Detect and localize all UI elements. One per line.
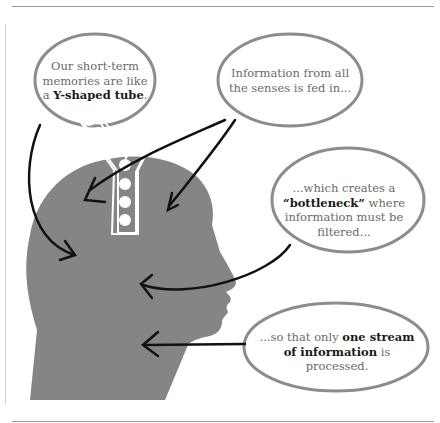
bubble-y-tube-pre: Our short-term memories are like bbox=[42, 59, 147, 88]
bubble-senses-text: Information from all the senses is fed i… bbox=[229, 66, 351, 95]
bubble-senses: Information from all the senses is fed i… bbox=[225, 66, 355, 95]
bubble-one-stream: ...so that only one stream of informatio… bbox=[256, 330, 418, 374]
bubble-bottleneck-pre: ...which creates a bbox=[293, 181, 396, 195]
bubble-y-tube-bold: Y-shaped tube bbox=[53, 88, 144, 102]
bubble-bottleneck: ...which creates a “bottleneck” where in… bbox=[276, 181, 412, 239]
head-silhouette bbox=[26, 156, 236, 400]
bubble-y-tube-post: . bbox=[144, 88, 148, 102]
bubble-bottleneck-bold: “bottleneck” bbox=[283, 196, 365, 210]
bubble-one-stream-pre: ...so that only bbox=[260, 330, 343, 344]
bubble-y-tube-lead: a bbox=[43, 88, 54, 102]
bubble-y-tube: Our short-term memories are like a Y-sha… bbox=[40, 59, 150, 103]
arrow-one-stream bbox=[145, 344, 245, 345]
